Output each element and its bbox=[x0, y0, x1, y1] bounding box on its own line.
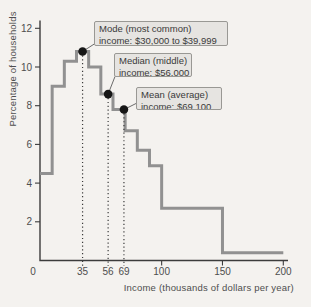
mode-dot bbox=[78, 47, 87, 56]
x-tick-label: 35 bbox=[77, 266, 89, 277]
x-tick-label: 200 bbox=[275, 266, 292, 277]
y-tick-label: 6 bbox=[26, 139, 32, 150]
callout-mode: Mode (most common) income: $30,000 to $3… bbox=[94, 21, 228, 46]
y-tick-label: 4 bbox=[26, 178, 32, 189]
y-tick-label: 2 bbox=[26, 216, 32, 227]
callout-median-value: income: $56,000 bbox=[119, 67, 187, 78]
callout-mean: Mean (average) income: $69,100 bbox=[136, 87, 222, 110]
mean-dot bbox=[120, 105, 129, 114]
income-distribution-figure: 246810120355669100150200 Percentage of h… bbox=[0, 0, 311, 307]
callout-mean-title: Mean (average) bbox=[141, 89, 217, 101]
callout-mode-title: Mode (most common) bbox=[99, 23, 223, 35]
y-tick-label: 12 bbox=[21, 23, 33, 34]
y-axis-title: Percentage of households bbox=[7, 11, 18, 126]
callout-median-title: Median (middle) bbox=[119, 55, 187, 67]
income-histogram-canvas: 246810120355669100150200 bbox=[0, 0, 311, 307]
median-dot bbox=[104, 90, 113, 99]
x-tick-label: 56 bbox=[103, 266, 115, 277]
callout-mean-value: income: $69,100 bbox=[141, 101, 217, 111]
x-tick-label: 150 bbox=[214, 266, 231, 277]
callout-mode-value: income: $30,000 to $39,999 bbox=[99, 35, 223, 47]
y-tick-label: 10 bbox=[21, 62, 33, 73]
x-axis-title: Income (thousands of dollars per year) bbox=[124, 282, 294, 293]
x-tick-label: 0 bbox=[30, 266, 36, 277]
y-tick-label: 8 bbox=[26, 100, 32, 111]
income-step-line bbox=[40, 52, 283, 253]
callout-median: Median (middle) income: $56,000 bbox=[114, 53, 192, 77]
x-tick-label: 69 bbox=[118, 266, 130, 277]
x-tick-label: 100 bbox=[153, 266, 170, 277]
